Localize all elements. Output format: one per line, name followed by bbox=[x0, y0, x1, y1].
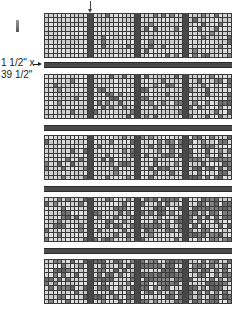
grid-square bbox=[79, 269, 82, 272]
grid-square bbox=[49, 136, 52, 139]
grid-square bbox=[94, 110, 97, 113]
grid-square bbox=[71, 198, 74, 201]
grid-square bbox=[175, 300, 178, 303]
grid-square bbox=[189, 115, 192, 118]
grid-square bbox=[141, 229, 144, 232]
grid-square bbox=[127, 260, 130, 263]
grid-square bbox=[123, 282, 126, 285]
grid-square bbox=[189, 273, 192, 276]
grid-square bbox=[179, 282, 182, 285]
grid-square bbox=[106, 84, 109, 87]
grid-square bbox=[162, 286, 165, 289]
grid-square bbox=[102, 136, 105, 139]
grid-square bbox=[149, 269, 152, 272]
grid-square bbox=[223, 211, 226, 214]
grid-square bbox=[84, 79, 87, 82]
grid-square bbox=[54, 158, 57, 161]
grid-square bbox=[141, 145, 144, 148]
grid-square bbox=[189, 295, 192, 298]
grid-square bbox=[215, 106, 218, 109]
grid-square bbox=[131, 295, 134, 298]
grid-square bbox=[75, 207, 78, 210]
grid-square bbox=[114, 27, 117, 30]
grid-square bbox=[110, 45, 113, 48]
grid-square bbox=[114, 32, 117, 35]
grid-square bbox=[49, 145, 52, 148]
grid-square bbox=[223, 27, 226, 30]
grid-square bbox=[98, 264, 101, 267]
grid-square bbox=[98, 36, 101, 39]
grid-square bbox=[110, 269, 113, 272]
grid-square bbox=[189, 158, 192, 161]
grid-square bbox=[223, 49, 226, 52]
grid-square bbox=[149, 40, 152, 43]
grid-square bbox=[149, 97, 152, 100]
grid-square bbox=[58, 54, 61, 57]
grid-square bbox=[58, 79, 61, 82]
grid-square bbox=[228, 54, 231, 57]
grid-square bbox=[175, 136, 178, 139]
grid-square bbox=[215, 32, 218, 35]
grid-square bbox=[219, 27, 222, 30]
grid-square bbox=[127, 115, 130, 118]
grid-square bbox=[66, 40, 69, 43]
grid-square bbox=[75, 27, 78, 30]
grid-square bbox=[145, 32, 148, 35]
grid-square bbox=[219, 286, 222, 289]
grid-square bbox=[193, 278, 196, 281]
grid-square bbox=[49, 291, 52, 294]
grid-square bbox=[62, 101, 65, 104]
grid-square bbox=[49, 149, 52, 152]
grid-square bbox=[166, 14, 169, 17]
grid-square bbox=[123, 93, 126, 96]
grid-square bbox=[175, 27, 178, 30]
grid-square bbox=[127, 220, 130, 223]
grid-square bbox=[154, 220, 157, 223]
grid-square bbox=[123, 79, 126, 82]
grid-square bbox=[106, 278, 109, 281]
grid-square bbox=[66, 36, 69, 39]
grid-square bbox=[149, 291, 152, 294]
grid-square bbox=[175, 295, 178, 298]
grid-square bbox=[66, 49, 69, 52]
grid-square bbox=[193, 93, 196, 96]
grid-square bbox=[98, 291, 101, 294]
grid-square bbox=[127, 286, 130, 289]
grid-square bbox=[45, 18, 48, 21]
grid-square bbox=[145, 110, 148, 113]
grid-square bbox=[127, 54, 130, 57]
grid-square bbox=[119, 167, 122, 170]
grid-square bbox=[179, 115, 182, 118]
grid-square bbox=[206, 220, 209, 223]
quilt-block bbox=[93, 135, 135, 180]
grid-square bbox=[79, 54, 82, 57]
grid-square bbox=[45, 202, 48, 205]
grid-square bbox=[149, 278, 152, 281]
grid-square bbox=[79, 171, 82, 174]
grid-square bbox=[110, 140, 113, 143]
grid-square bbox=[45, 269, 48, 272]
grid-square bbox=[158, 211, 161, 214]
grid-square bbox=[198, 207, 201, 210]
grid-square bbox=[215, 233, 218, 236]
grid-square bbox=[54, 14, 57, 17]
grid-square bbox=[223, 84, 226, 87]
grid-square bbox=[193, 158, 196, 161]
grid-square bbox=[123, 286, 126, 289]
grid-square bbox=[145, 176, 148, 179]
grid-square bbox=[127, 145, 130, 148]
grid-square bbox=[102, 88, 105, 91]
grid-square bbox=[179, 238, 182, 241]
grid-square bbox=[98, 207, 101, 210]
grid-square bbox=[170, 233, 173, 236]
grid-square bbox=[62, 198, 65, 201]
grid-square bbox=[119, 154, 122, 157]
grid-square bbox=[84, 88, 87, 91]
grid-square bbox=[179, 14, 182, 17]
grid-square bbox=[210, 229, 213, 232]
grid-square bbox=[149, 207, 152, 210]
grid-square bbox=[158, 40, 161, 43]
grid-square bbox=[198, 211, 201, 214]
grid-square bbox=[202, 260, 205, 263]
quilt-block bbox=[188, 259, 232, 304]
